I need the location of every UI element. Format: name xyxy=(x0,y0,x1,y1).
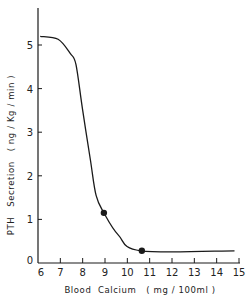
data-point-marker xyxy=(101,210,107,216)
x-tick-label: 13 xyxy=(188,267,201,278)
y-tick-label: 4 xyxy=(27,84,33,95)
axes: 6789101112131415 012345 xyxy=(27,8,246,278)
y-axis-title: PTH Secretion ( ng / Kg / min ) xyxy=(6,75,16,235)
y-tick-label: 0 xyxy=(27,255,33,266)
data-point-markers xyxy=(101,210,145,254)
y-tick-label: 1 xyxy=(27,214,33,225)
x-ticks: 6789101112131415 xyxy=(38,258,246,278)
y-ticks: 012345 xyxy=(27,40,42,266)
pth-curve-line xyxy=(40,36,234,252)
y-tick-label: 2 xyxy=(27,171,33,182)
x-axis-title: Blood Calcium ( mg / 100ml ) xyxy=(64,285,215,295)
x-tick-label: 7 xyxy=(57,267,63,278)
x-tick-label: 9 xyxy=(102,267,108,278)
x-tick-label: 15 xyxy=(233,267,246,278)
data-point-marker xyxy=(139,248,145,254)
x-tick-label: 10 xyxy=(121,267,134,278)
x-tick-label: 8 xyxy=(79,267,85,278)
x-tick-label: 6 xyxy=(38,267,44,278)
x-tick-label: 14 xyxy=(210,267,223,278)
pth-secretion-chart: 6789101112131415 012345 Blood Calcium ( … xyxy=(0,0,249,302)
y-tick-label: 5 xyxy=(27,40,33,51)
y-tick-label: 3 xyxy=(27,127,33,138)
x-tick-label: 12 xyxy=(166,267,179,278)
x-tick-label: 11 xyxy=(143,267,156,278)
